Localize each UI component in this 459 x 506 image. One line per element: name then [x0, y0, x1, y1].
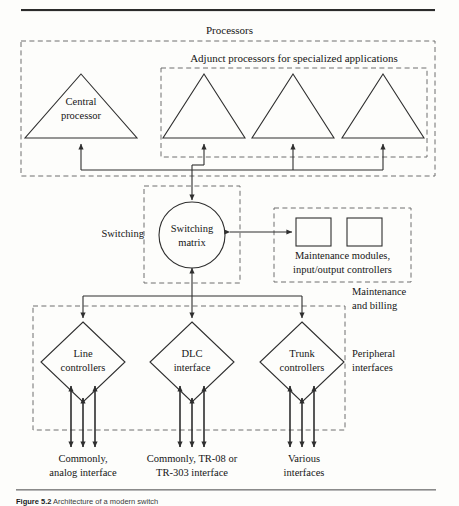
maintenance-module-square-1: [296, 218, 331, 246]
switching-matrix-label-line1: Switching: [152, 223, 232, 235]
maintenance-module-square-2: [347, 218, 382, 246]
switching-matrix-label-line2: matrix: [152, 237, 232, 249]
adjunct-processor-triangle-3: [342, 74, 424, 138]
trunk-controllers-label-line2: controllers: [262, 362, 342, 374]
figure-caption-number: Figure 5.2: [16, 497, 51, 506]
dlc-interface-caption-line1: Commonly, TR-08 or: [130, 453, 254, 465]
figure-caption-text: Architecture of a modern switch: [53, 497, 158, 506]
line-interface-caption-line2: analog interface: [23, 467, 143, 479]
top-rule: [21, 9, 435, 11]
peripheral-interfaces-label-line2: interfaces: [352, 362, 452, 374]
dlc-interface-lines: [180, 386, 204, 447]
adjunct-processor-triangle-1: [163, 74, 245, 138]
line-interface-caption-line1: Commonly,: [23, 453, 143, 465]
dlc-interface-caption-line2: TR-303 interface: [130, 467, 254, 479]
trunk-interface-caption-line2: interfaces: [262, 467, 346, 479]
maintenance-billing-label-line1: Maintenance: [352, 286, 452, 298]
trunk-controllers-interface-lines: [290, 386, 314, 447]
maintenance-modules-label-line2: input/output controllers: [274, 264, 411, 276]
adjunct-processor-triangle-2: [252, 74, 334, 138]
line-controllers-label-line1: Line: [43, 348, 123, 360]
line-controllers-label-line2: controllers: [43, 362, 123, 374]
bottom-rule: [16, 489, 436, 491]
adjunct-group-label: Adjunct processors for specialized appli…: [161, 52, 427, 64]
peripheral-interfaces-label-line1: Peripheral: [352, 348, 452, 360]
trunk-interface-caption-line1: Various: [262, 453, 346, 465]
line-controllers-interface-lines: [71, 386, 95, 447]
dlc-interface-label-line1: DLC: [152, 348, 232, 360]
central-processor-label-line2: processor: [41, 110, 121, 122]
processors-group-label: Processors: [0, 24, 459, 36]
maintenance-modules-label-line1: Maintenance modules,: [274, 250, 411, 262]
switching-matrix-circle: [159, 202, 225, 268]
maintenance-billing-label-line2: and billing: [352, 300, 452, 312]
dlc-interface-label-line2: interface: [152, 362, 232, 374]
central-processor-label-line1: Central: [41, 96, 121, 108]
figure-caption: Figure 5.2 Architecture of a modern swit…: [16, 497, 436, 506]
trunk-controllers-label-line1: Trunk: [262, 348, 342, 360]
switching-group-label: Switching: [78, 228, 144, 240]
